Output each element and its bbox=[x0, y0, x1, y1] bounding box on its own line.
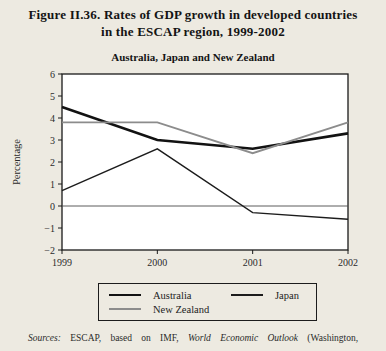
y-tick-label: 5 bbox=[50, 91, 55, 102]
gdp-growth-line-chart: 6543210−1−21999200020012002Percentage bbox=[0, 0, 386, 275]
y-tick-label: 4 bbox=[50, 113, 55, 124]
legend-item-new-zealand: New Zealand bbox=[109, 304, 231, 315]
y-tick-label: 0 bbox=[50, 201, 55, 212]
legend-label-japan: Japan bbox=[275, 290, 299, 301]
sources-text-1: ESCAP, based on IMF, bbox=[70, 333, 178, 343]
chart-legend: Australia Japan New Zealand bbox=[98, 283, 317, 321]
sources-publication: World Economic Outlook bbox=[188, 333, 298, 343]
legend-item-japan: Japan bbox=[231, 290, 316, 301]
y-tick-label: 1 bbox=[50, 179, 55, 190]
y-axis-label: Percentage bbox=[11, 139, 22, 185]
y-tick-label: 6 bbox=[50, 69, 55, 80]
y-tick-label: 3 bbox=[50, 135, 55, 146]
x-tick-label: 1999 bbox=[52, 257, 72, 268]
figure: Figure II.36. Rates of GDP growth in dev… bbox=[0, 0, 386, 351]
y-tick-label: −2 bbox=[44, 245, 55, 256]
new-zealand-line-swatch bbox=[109, 308, 141, 310]
australia-line-swatch bbox=[109, 294, 141, 297]
y-tick-label: −1 bbox=[44, 223, 55, 234]
x-tick-label: 2001 bbox=[243, 257, 263, 268]
japan-line-swatch bbox=[231, 294, 263, 295]
plot-area bbox=[62, 74, 348, 250]
sources-label: Sources: bbox=[28, 333, 61, 343]
sources-note: Sources: ESCAP, based on IMF, World Econ… bbox=[28, 333, 358, 343]
x-tick-label: 2002 bbox=[338, 257, 358, 268]
legend-item-australia: Australia bbox=[109, 290, 231, 301]
x-tick-label: 2000 bbox=[147, 257, 167, 268]
legend-label-australia: Australia bbox=[153, 290, 192, 301]
sources-text-2: (Washington, bbox=[307, 333, 358, 343]
y-tick-label: 2 bbox=[50, 157, 55, 168]
legend-label-new-zealand: New Zealand bbox=[153, 304, 209, 315]
